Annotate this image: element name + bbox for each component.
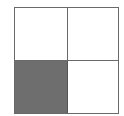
grid-cell-bottom-left-shaded xyxy=(15,61,68,113)
grid-cell-top-left xyxy=(15,8,68,61)
grid-diagram xyxy=(14,7,119,114)
grid-cell-bottom-right xyxy=(68,61,118,113)
grid-cell-top-right xyxy=(68,8,118,61)
